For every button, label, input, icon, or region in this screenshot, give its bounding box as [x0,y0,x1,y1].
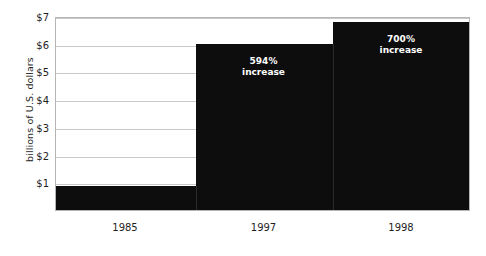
bar-separator [333,44,334,210]
y-tick-label: $1 [9,178,49,189]
y-tick-label: $6 [9,39,49,50]
x-tick-label-1997: 1997 [224,222,304,233]
bar-annotation-1997: 594%increase [195,56,332,78]
x-tick-label-1985: 1985 [85,222,165,233]
annotation-line-1: 594% [250,56,278,66]
annotation-line-1: 700% [387,34,415,44]
bar-1985 [56,186,196,210]
bar-annotation-1998: 700%increase [332,34,470,56]
annotation-line-2: increase [195,67,332,78]
bar-chart: billions of U.S. dollars $7$6$5$4$3$2$1 … [0,0,486,256]
bar-separator [196,186,197,210]
y-axis-title: billions of U.S. dollars [24,35,35,185]
y-tick-label: $2 [9,150,49,161]
gridline [56,18,469,19]
x-tick-label-1998: 1998 [361,222,441,233]
y-tick-label: $4 [9,95,49,106]
y-tick-label: $5 [9,67,49,78]
y-tick-label: $7 [9,12,49,23]
annotation-line-2: increase [332,45,470,56]
y-tick-label: $3 [9,122,49,133]
